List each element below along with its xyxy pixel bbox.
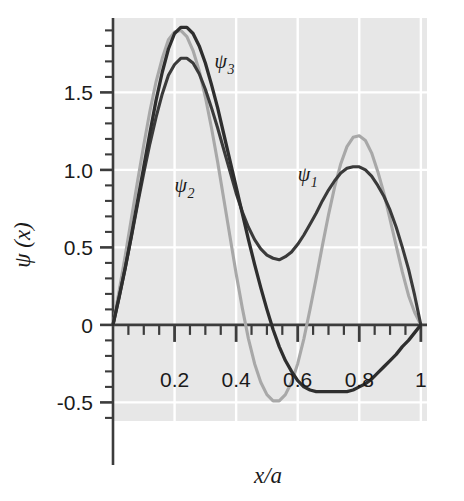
curve-annotation-subscript: 2 [188, 186, 195, 201]
x-tick-label: 0.6 [283, 368, 312, 391]
y-tick-label: -0.5 [57, 391, 93, 414]
x-tick-label: 0.8 [345, 368, 374, 391]
psi-wavefunction-plot: -0.500.51.01.5 0.20.40.60.81 ψ3ψ2ψ1 ψ (x… [0, 0, 464, 501]
y-axis-title-text: ψ (x) [10, 222, 35, 268]
y-tick-label: 1.0 [64, 159, 93, 182]
curve-annotation-symbol: ψ [175, 174, 188, 197]
y-axis-title: ψ (x) [10, 222, 35, 268]
x-tick-label: 0.2 [160, 368, 189, 391]
x-tick-label: 0.4 [222, 368, 252, 391]
y-tick-label: 0 [81, 314, 93, 337]
y-tick-label: 1.5 [64, 81, 93, 104]
curve-annotation-subscript: 1 [311, 175, 318, 190]
x-axis-title-text: x/a [253, 463, 282, 488]
curve-annotation-symbol: ψ [215, 50, 228, 73]
chart-figure: -0.500.51.01.5 0.20.40.60.81 ψ3ψ2ψ1 ψ (x… [0, 0, 464, 501]
curve-annotation-symbol: ψ [298, 163, 311, 186]
curve-annotation-subscript: 3 [227, 62, 235, 77]
x-tick-label: 1 [415, 368, 427, 391]
y-tick-label: 0.5 [64, 236, 93, 259]
